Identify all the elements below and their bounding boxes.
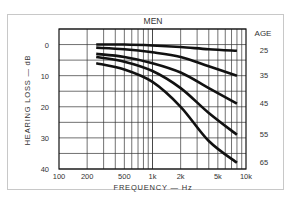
age-label-65: 65 xyxy=(260,158,268,167)
age-label-45: 45 xyxy=(260,99,268,108)
age-labels: 2535455565 xyxy=(260,46,268,167)
x-tick-label: 2k xyxy=(177,172,185,181)
x-tick-labels: 1002005001k2k5k10k xyxy=(53,172,253,181)
y-tick-labels: 010203040 xyxy=(41,41,49,174)
y-tick-label: 10 xyxy=(41,72,49,81)
y-tick-label: 40 xyxy=(41,165,49,174)
curves xyxy=(96,44,237,162)
curve-age-35 xyxy=(96,48,237,76)
hearing-loss-chart: 1002005001k2k5k10k 010203040 2535455565 … xyxy=(0,0,292,203)
x-tick-label: 100 xyxy=(53,172,66,181)
age-label-25: 25 xyxy=(260,46,268,55)
age-label-55: 55 xyxy=(260,130,268,139)
chart-title: MEN xyxy=(144,16,163,26)
y-tick-label: 30 xyxy=(41,134,49,143)
age-label-35: 35 xyxy=(260,71,268,80)
legend-title: AGE xyxy=(255,29,272,38)
y-axis-label: HEARING LOSS — dB xyxy=(23,55,32,146)
x-tick-label: 200 xyxy=(81,172,94,181)
x-tick-label: 10k xyxy=(240,172,252,181)
y-tick-label: 0 xyxy=(45,41,49,50)
x-tick-label: 5k xyxy=(214,172,222,181)
x-axis-label: FREQUENCY — Hz xyxy=(114,183,193,192)
x-tick-label: 1k xyxy=(149,172,157,181)
y-tick-label: 20 xyxy=(41,103,49,112)
x-tick-label: 500 xyxy=(118,172,131,181)
